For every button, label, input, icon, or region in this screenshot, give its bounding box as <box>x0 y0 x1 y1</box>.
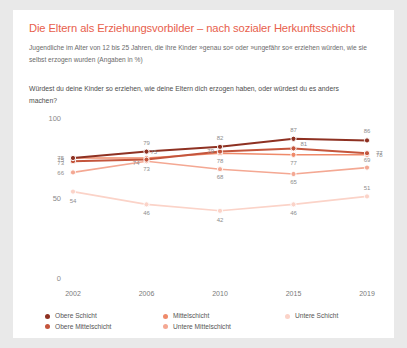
x-axis-tick-label: 2010 <box>212 290 228 297</box>
chart-svg: 1005002002200620102015201975798287867374… <box>25 110 385 310</box>
y-axis-tick-label: 100 <box>48 114 61 123</box>
page-title: Die Eltern als Erziehungsvorbilder – nac… <box>29 22 355 34</box>
data-point-label: 46 <box>290 210 297 216</box>
legend-dot-icon <box>285 314 290 319</box>
data-point-label: 73 <box>143 166 150 172</box>
data-point-label: 79 <box>207 148 214 154</box>
legend-dot-icon <box>45 324 50 329</box>
legend-row-1: Obere Schicht Mittelschicht Untere Schic… <box>45 313 385 320</box>
data-point-marker <box>217 167 222 172</box>
data-point-label: 86 <box>364 128 371 134</box>
data-point-label: 79 <box>143 140 150 146</box>
legend-item-mittelschicht[interactable]: Mittelschicht <box>163 313 285 320</box>
data-point-marker <box>291 152 296 157</box>
data-point-label: 75 <box>151 149 158 155</box>
data-point-label: 74 <box>133 160 140 166</box>
line-chart: 1005002002200620102015201975798287867374… <box>25 110 385 310</box>
legend-row-2: Obere Mittelschicht Untere Mittelschicht <box>45 324 385 331</box>
legend-item-untere-schicht[interactable]: Untere Schicht <box>285 313 385 320</box>
data-point-marker <box>364 151 369 156</box>
chart-legend: Obere Schicht Mittelschicht Untere Schic… <box>45 313 385 334</box>
data-point-label: 87 <box>290 127 297 133</box>
data-point-label: 66 <box>57 170 64 176</box>
data-point-label: 81 <box>301 141 308 147</box>
legend-dot-icon <box>163 314 168 319</box>
legend-item-obere-mittelschicht[interactable]: Obere Mittelschicht <box>45 324 163 331</box>
data-point-label: 46 <box>143 210 150 216</box>
data-point-marker <box>70 170 75 175</box>
data-point-label: 75 <box>57 157 64 163</box>
data-point-marker <box>70 189 75 194</box>
legend-spacer <box>285 324 385 331</box>
data-point-label: 78 <box>217 158 224 164</box>
data-point-marker <box>144 157 149 162</box>
legend-dot-icon <box>45 314 50 319</box>
data-point-marker <box>291 171 296 176</box>
data-point-label: 65 <box>290 179 297 185</box>
y-axis-tick-label: 50 <box>53 194 61 203</box>
x-axis-tick-label: 2006 <box>139 290 155 297</box>
legend-label: Obere Schicht <box>55 313 97 320</box>
data-point-label: 54 <box>70 198 77 204</box>
x-axis-tick-label: 2019 <box>359 290 375 297</box>
data-point-marker <box>70 155 75 160</box>
legend-label: Untere Schicht <box>295 313 338 320</box>
chart-card: Die Eltern als Erziehungsvorbilder – nac… <box>13 10 394 338</box>
legend-dot-icon <box>163 324 168 329</box>
data-point-label: 68 <box>217 174 224 180</box>
legend-item-untere-mittelschicht[interactable]: Untere Mittelschicht <box>163 324 285 331</box>
x-axis-tick-label: 2015 <box>286 290 302 297</box>
data-point-marker <box>364 194 369 199</box>
data-point-marker <box>217 144 222 149</box>
survey-question: Würdest du deine Kinder so erziehen, wie… <box>29 83 359 107</box>
data-point-label: 51 <box>364 185 371 191</box>
data-point-label: 77 <box>290 160 297 166</box>
data-point-marker <box>291 202 296 207</box>
data-point-marker <box>291 146 296 151</box>
data-point-marker <box>144 149 149 154</box>
data-point-marker <box>364 138 369 143</box>
legend-label: Untere Mittelschicht <box>173 324 231 331</box>
data-point-label: 77 <box>376 150 383 156</box>
x-axis-tick-label: 2002 <box>65 290 81 297</box>
data-point-marker <box>217 208 222 213</box>
legend-item-obere-schicht[interactable]: Obere Schicht <box>45 313 163 320</box>
y-axis-tick-label: 0 <box>57 274 61 283</box>
data-point-marker <box>291 136 296 141</box>
data-point-marker <box>364 165 369 170</box>
data-point-label: 69 <box>364 157 371 163</box>
data-point-label: 42 <box>217 217 224 223</box>
data-point-marker <box>144 202 149 207</box>
legend-label: Obere Mittelschicht <box>55 324 111 331</box>
data-point-label: 82 <box>217 135 224 141</box>
chart-subtitle: Jugendliche im Alter von 12 bis 25 Jahre… <box>29 42 379 65</box>
legend-label: Mittelschicht <box>173 313 209 320</box>
